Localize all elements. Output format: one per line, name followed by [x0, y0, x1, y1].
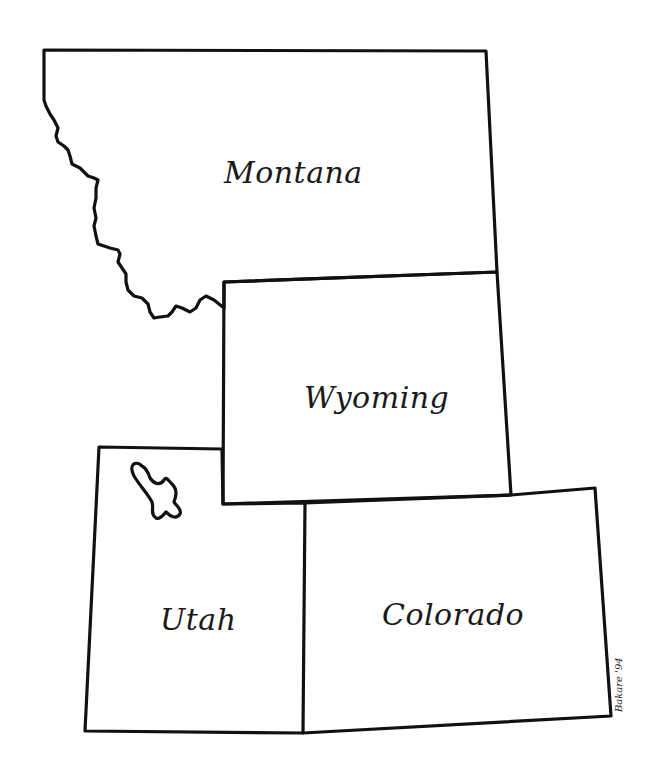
state-wyoming: Wyoming	[223, 272, 511, 504]
utah-border	[85, 447, 305, 733]
artist-signature: Bakare '94	[613, 657, 624, 713]
label-utah: Utah	[160, 602, 237, 637]
state-utah: Utah	[85, 447, 305, 733]
label-wyoming: Wyoming	[304, 380, 449, 415]
state-montana: Montana	[44, 50, 497, 318]
map-canvas: Montana Wyoming Utah Colorado Bakare '94	[0, 0, 658, 778]
great-salt-lake	[132, 463, 181, 518]
label-colorado: Colorado	[382, 597, 524, 632]
label-montana: Montana	[223, 155, 363, 190]
state-colorado: Colorado	[303, 488, 611, 733]
